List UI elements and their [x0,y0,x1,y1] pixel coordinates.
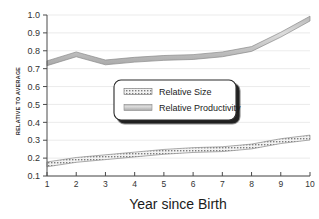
legend-label-relative-size: Relative Size [159,87,212,97]
y-axis-tick-label: 0.9 [27,28,40,38]
legend-label-relative-productivity: Relative Productivity [159,103,241,113]
x-axis-tick-label: 3 [103,179,108,189]
y-axis-tick-label: 1.0 [27,10,40,20]
x-axis-tick-label: 8 [249,179,254,189]
x-axis-tick-label: 2 [74,179,79,189]
y-axis-tick-label: 0.8 [27,46,40,56]
y-axis-tick-label: 0.4 [27,118,40,128]
y-axis-tick-label: 0.3 [27,135,40,145]
x-axis-tick-label: 10 [305,179,315,189]
x-axis-tick-label: 5 [162,179,167,189]
x-axis-tick-label: 6 [191,179,196,189]
x-axis-tick-label: 7 [220,179,225,189]
y-axis-label: RELATIVE TO AVERAGE [15,67,21,135]
y-axis-tick-label: 0.2 [27,153,40,163]
legend: Relative Size Relative Productivity [114,80,241,120]
y-axis-tick-label: 0.6 [27,82,40,92]
x-axis-tick-label: 9 [278,179,283,189]
y-axis-tick-label: 0.1 [27,171,40,181]
chart-canvas: 1.00.90.80.70.60.50.40.30.20.1 123456789… [0,0,319,219]
x-axis-tick-label: 1 [45,179,50,189]
x-axis-tick-label: 4 [132,179,137,189]
y-axis-tick-label: 0.7 [27,64,40,74]
x-axis-label: Year since Birth [129,196,227,212]
y-axis-tick-label: 0.5 [27,100,40,110]
legend-swatch-relative-size [124,89,152,95]
chart-figure: 1.00.90.80.70.60.50.40.30.20.1 123456789… [0,0,319,219]
legend-swatch-relative-productivity [124,105,152,111]
